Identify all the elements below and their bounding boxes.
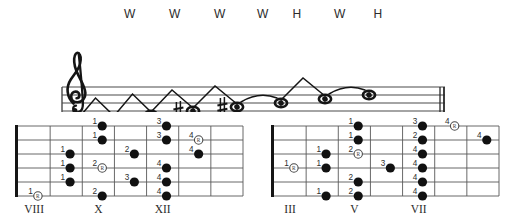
note-dot	[98, 121, 107, 130]
root-letter: R	[453, 123, 457, 129]
note-dot	[194, 149, 203, 158]
fret-dot-6: R2	[349, 145, 363, 158]
interval-label-3: W	[257, 7, 269, 21]
finger-number: 1	[93, 131, 98, 140]
note-dot	[354, 177, 363, 186]
finger-number: 4	[157, 173, 162, 182]
fret-position-label-2: VII	[411, 203, 427, 215]
fret-dot-1: 1	[60, 145, 74, 158]
fret-dot-11: 2	[413, 131, 427, 144]
finger-number: 1	[316, 159, 321, 168]
interval-label-row: WWWWHWH	[0, 0, 511, 34]
note-dot	[65, 177, 74, 186]
note-dot	[418, 149, 427, 158]
fret-dot-7: 2	[349, 173, 363, 186]
finger-number: 3	[125, 173, 130, 182]
note-dot	[354, 135, 363, 144]
fret-dot-14: 4	[413, 173, 427, 186]
finger-number: 4	[413, 145, 418, 154]
fret-dot-0: R1	[28, 187, 42, 200]
fret-dot-15: 4	[413, 187, 427, 200]
interval-label-4: H	[292, 7, 301, 21]
fret-dot-5: 1	[93, 131, 107, 144]
half-step-arc-4	[241, 95, 277, 102]
note-dot	[418, 191, 427, 200]
finger-number: 1	[284, 159, 289, 168]
note-dot	[65, 149, 74, 158]
fret-dot-9: 3	[381, 159, 395, 172]
finger-number: 2	[93, 187, 98, 196]
fret-dot-1: 1	[316, 145, 330, 158]
note-2	[145, 111, 157, 112]
fret-dot-12: 4	[157, 159, 171, 172]
fret-dot-11: 3	[157, 131, 171, 144]
note-dot	[162, 163, 171, 172]
fret-position-label-1: X	[94, 203, 103, 215]
fret-position-label-0: III	[284, 203, 296, 215]
interval-label-6: H	[373, 7, 382, 21]
fret-dot-8: 2	[349, 187, 363, 200]
finger-number: 2	[125, 145, 130, 154]
finger-number: 4	[189, 145, 194, 154]
fret-dot-4: 1	[349, 118, 363, 131]
fret-dot-9: 3	[125, 173, 139, 186]
note-dot	[321, 191, 330, 200]
interval-label-1: W	[169, 7, 181, 21]
note-dot	[321, 149, 330, 158]
note-dot	[418, 135, 427, 144]
double-barline	[440, 87, 444, 112]
staff-lines	[62, 87, 445, 112]
fret-dot-2: 1	[60, 159, 74, 172]
staff-notation	[0, 34, 511, 112]
root-letter: R	[100, 165, 104, 171]
fret-position-label-2: XII	[155, 203, 171, 215]
note-dot	[130, 177, 139, 186]
note-dot	[98, 135, 107, 144]
fret-dot-15: R4	[189, 131, 203, 144]
fret-dot-6: R2	[93, 159, 107, 172]
note-6	[319, 95, 331, 103]
note-dot	[65, 163, 74, 172]
fret-dot-13: 4	[413, 159, 427, 172]
finger-number: 3	[157, 131, 162, 140]
finger-number: 4	[157, 159, 162, 168]
nut	[271, 125, 274, 197]
fretboard-left-svg: R111111R222333444R44VIIIXXII	[0, 118, 255, 223]
root-letter: R	[292, 165, 296, 171]
note-dot	[418, 163, 427, 172]
note-dot	[162, 121, 171, 130]
finger-number: 1	[93, 118, 98, 126]
finger-number: 3	[157, 118, 162, 126]
root-letter: R	[356, 151, 360, 157]
music-staff-block	[0, 34, 511, 112]
fretboard-diagram-right: R111111R2223324444R44IIIVVII	[256, 118, 511, 223]
finger-number: 4	[413, 159, 418, 168]
fret-dot-17: 4	[477, 131, 491, 144]
interval-label-2: W	[214, 7, 226, 21]
finger-number: 1	[349, 118, 354, 126]
note-dot	[162, 191, 171, 200]
finger-number: 4	[445, 118, 450, 126]
fret-dot-13: 4	[157, 173, 171, 186]
nut	[15, 125, 18, 197]
finger-number: 2	[413, 131, 418, 140]
interval-label-5: W	[334, 7, 346, 21]
fret-dot-5: 1	[349, 131, 363, 144]
fret-dot-7: 2	[93, 187, 107, 200]
fret-dot-16: R4	[445, 118, 459, 130]
finger-number: 4	[477, 131, 482, 140]
fret-dot-3: 1	[316, 187, 330, 200]
note-dot	[130, 149, 139, 158]
note-dot	[386, 163, 395, 172]
fret-dot-10: 3	[413, 118, 427, 131]
note-dot	[418, 177, 427, 186]
interval-label-0: W	[124, 7, 136, 21]
fret-dot-12: 4	[413, 145, 427, 158]
finger-number: 4	[413, 173, 418, 182]
fret-position-label-0: VIII	[24, 203, 44, 215]
finger-number: 1	[316, 187, 321, 196]
note-dot	[354, 191, 363, 200]
finger-number: 1	[60, 173, 65, 182]
fret-dot-16: 4	[189, 145, 203, 158]
fret-dot-14: 4	[157, 187, 171, 200]
